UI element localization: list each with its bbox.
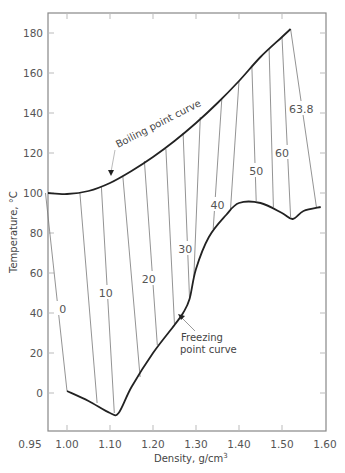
x-tick-label: 1.50 xyxy=(270,438,293,450)
isoconcentration-line xyxy=(230,81,239,211)
freezing-point-curve xyxy=(67,202,321,416)
plot-border xyxy=(48,13,326,431)
freezing-curve-label-line1: Freezing xyxy=(181,332,223,343)
concentration-label: 50 xyxy=(249,165,263,178)
y-tick-label: 160 xyxy=(23,67,43,79)
plot-frame xyxy=(48,13,326,431)
y-tick-label: 40 xyxy=(30,307,43,319)
curves xyxy=(48,29,321,415)
isoconcentration-line: 10 xyxy=(99,187,115,413)
isoconcentration-line: 60 xyxy=(275,37,291,217)
y-tick-label: 120 xyxy=(23,147,43,159)
x-tick-label: 1.10 xyxy=(98,438,121,450)
y-tick-label: 100 xyxy=(23,187,43,199)
y-axis-title: Temperature, °C xyxy=(8,191,19,274)
isoconcentration-line: 40 xyxy=(211,99,225,229)
isoconcentration-line: 0 xyxy=(46,193,68,391)
boiling-point-annotation: Boiling point curve xyxy=(108,97,203,176)
y-tick-label: 180 xyxy=(23,27,43,39)
isoconcentration-line xyxy=(80,193,97,403)
y-tick-label: 0 xyxy=(36,387,43,399)
isoconcentration-line xyxy=(269,49,273,207)
x-tick-label: 1.40 xyxy=(227,438,250,450)
y-tick-label: 140 xyxy=(23,107,43,119)
x-tick-label: 1.20 xyxy=(141,438,164,450)
freezing-arrow xyxy=(182,318,195,331)
freezing-point-annotation: Freezing point curve xyxy=(178,314,237,355)
isoconcentration-lines: 010203040506063.8 xyxy=(46,29,317,413)
boiling-curve-label: Boiling point curve xyxy=(114,97,203,149)
x-tick-label: 1.60 xyxy=(313,438,336,450)
isoconcentration-line: 20 xyxy=(142,161,158,345)
x-tick-label: 1.30 xyxy=(184,438,207,450)
concentration-label: 40 xyxy=(211,199,225,212)
concentration-label: 0 xyxy=(59,303,66,316)
concentration-label: 60 xyxy=(275,147,289,160)
y-tick-label: 20 xyxy=(30,347,43,359)
concentration-label: 20 xyxy=(142,273,156,286)
y-tick-label: 60 xyxy=(30,267,43,279)
isoconcentration-line: 30 xyxy=(178,133,192,299)
concentration-label: 10 xyxy=(99,287,113,300)
chart: 020406080100120140160180 0.951.001.101.2… xyxy=(0,0,345,473)
isoconcentration-line xyxy=(123,177,140,377)
isoconcentration-line: 50 xyxy=(249,67,263,201)
concentration-label: 30 xyxy=(178,243,192,256)
concentration-label: 63.8 xyxy=(289,103,314,116)
y-tick-label: 80 xyxy=(30,227,43,239)
boiling-arrowhead-icon xyxy=(108,170,114,176)
x-tick-label: 1.00 xyxy=(55,438,78,450)
isoconcentration-line xyxy=(194,117,200,277)
x-tick-label: 0.95 xyxy=(18,438,41,450)
isoconcentration-line: 63.8 xyxy=(289,29,316,207)
x-axis-title: Density, g/cm3 xyxy=(154,452,228,464)
freezing-curve-label-line2: point curve xyxy=(180,344,237,355)
boiling-arrow xyxy=(111,150,115,172)
isoconcentration-line xyxy=(166,149,175,325)
